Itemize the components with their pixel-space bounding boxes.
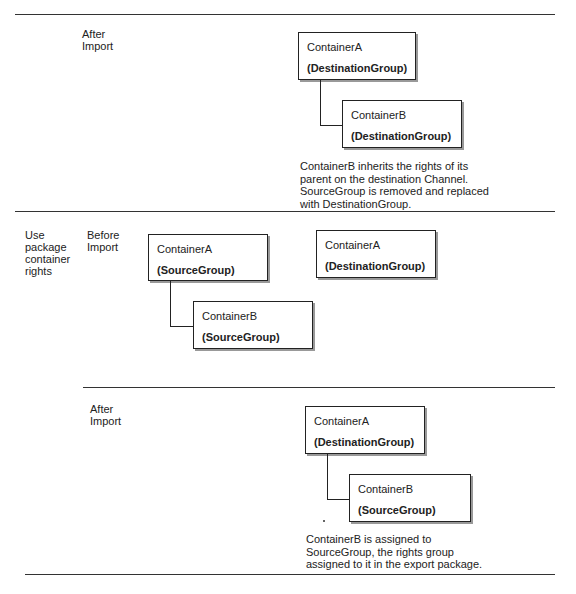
container-group: (DestinationGroup) [314,436,424,449]
row2-destination-container-a: ContainerA (DestinationGroup) [316,230,436,278]
container-name: ContainerB [351,109,461,122]
container-group: (DestinationGroup) [307,62,415,75]
row1-bottom-rule [15,211,555,212]
row3-connector-horizontal [327,499,349,500]
container-name: ContainerB [358,483,470,496]
container-group: (SourceGroup) [157,264,267,277]
container-group: (DestinationGroup) [351,130,461,143]
row1-connector-horizontal [320,125,342,126]
container-name: ContainerB [202,310,312,323]
table-top-rule [15,14,555,15]
container-group: (SourceGroup) [202,331,312,344]
container-name: ContainerA [307,41,415,54]
container-name: ContainerA [157,243,267,256]
row1-container-a: ContainerA (DestinationGroup) [298,32,416,80]
row2-stage-label: Before Import [87,229,137,253]
container-group: (DestinationGroup) [325,260,435,273]
row3-container-b: ContainerB (SourceGroup) [349,474,471,522]
row1-stage-label: After Import [82,28,132,52]
row2-source-container-b: ContainerB (SourceGroup) [193,301,313,349]
row3-container-a: ContainerA (DestinationGroup) [305,406,425,454]
container-group: (SourceGroup) [358,504,470,517]
container-name: ContainerA [314,415,424,428]
row3-stage-label: After Import [90,403,140,427]
row2-option-label: Use package container rights [25,229,75,277]
container-name: ContainerA [325,239,435,252]
row1-container-b: ContainerB (DestinationGroup) [342,100,462,148]
row3-note: ContainerB is assigned to SourceGroup, t… [306,533,496,571]
table-bottom-rule [25,574,555,575]
row2-source-container-a: ContainerA (SourceGroup) [148,234,268,281]
stray-mark [323,520,325,522]
row2-connector-vertical [170,281,171,327]
row3-connector-vertical [327,454,328,500]
row1-note: ContainerB inherits the rights of its pa… [300,160,490,210]
row2-connector-horizontal [170,326,193,327]
row1-connector-vertical [320,80,321,126]
row2-bottom-rule [83,387,555,388]
